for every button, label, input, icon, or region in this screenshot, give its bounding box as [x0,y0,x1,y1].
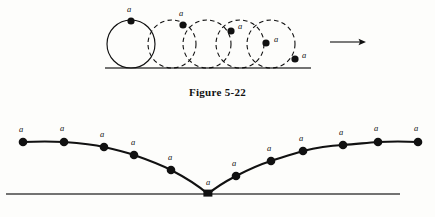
cycloid-cusp-point [203,190,212,197]
cycloid-curve-right-arch [208,142,418,194]
point-label-a: a [19,124,23,134]
cycloid-point [339,141,348,150]
rolling-circle-sequence: a a a a a [105,4,366,68]
point-label-a: a [127,4,131,14]
figure-5-22: a a a a a [0,0,435,217]
point-label-a: a [374,123,378,133]
marked-point [262,39,269,46]
point-label-a: a [274,34,278,44]
cycloid-point-labels: a a a a a a a a a a a a [19,123,418,187]
point-label-a: a [232,158,236,168]
point-label-a: a [299,133,303,143]
marked-point [127,17,134,24]
cycloid-point [100,143,109,152]
motion-direction-arrow [330,39,366,45]
cycloid-trace: a a a a a a a a a a a a [6,123,422,197]
cycloid-point [167,166,176,175]
point-label-a: a [267,143,271,153]
cycloid-point [374,138,383,147]
marked-point [227,27,234,34]
cycloid-point [19,138,28,147]
point-label-a: a [60,123,64,133]
point-label-a: a [339,127,343,137]
rolling-circle-1 [107,20,155,68]
cycloid-points [19,138,423,197]
point-label-a: a [168,152,172,162]
point-label-a: a [179,8,183,18]
point-label-a: a [206,177,210,187]
point-label-a: a [302,50,306,60]
point-label-a: a [100,129,104,139]
point-label-a: a [131,137,135,147]
cycloid-curve-left-arch [23,141,208,194]
marked-point [291,55,298,62]
rolling-circle-3 [183,20,231,68]
cycloid-point [267,157,276,166]
cycloid-point [60,138,69,147]
figure-caption: Figure 5-22 [0,86,435,98]
point-label-a: a [238,21,242,31]
cycloid-point [414,138,423,147]
cycloid-point [130,151,139,160]
cycloid-point [232,172,241,181]
rolling-circle-5 [247,20,295,68]
figure-canvas: a a a a a [0,0,435,217]
point-label-a: a [414,123,418,133]
cycloid-point [299,147,308,156]
marked-point [179,21,186,28]
